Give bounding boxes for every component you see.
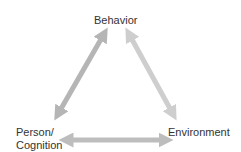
node-environment: Environment xyxy=(168,126,230,139)
node-behavior: Behavior xyxy=(94,14,137,27)
arrow-person-behavior xyxy=(58,34,104,114)
node-person-line2: Cognition xyxy=(16,139,62,152)
arrow-behavior-environment xyxy=(129,34,173,114)
triadic-diagram: Behavior Person/ Cognition Environment xyxy=(0,0,241,152)
node-person-line1: Person/ xyxy=(16,126,54,139)
